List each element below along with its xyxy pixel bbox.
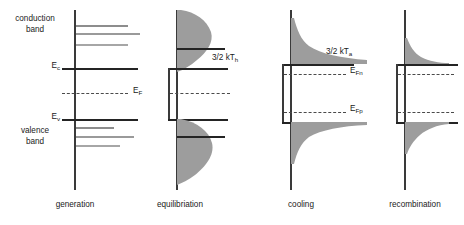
kta-text: 3/2 kT [326,47,349,56]
generation-ev-line [62,119,138,121]
generation-conduction-level-1 [76,25,128,27]
generation-valence-level-1 [76,127,114,129]
efn-subscript: Fn [355,69,362,76]
kth-text: 3/2 kT [212,53,235,62]
recombination-bandgap-bracket [396,64,398,122]
cooling-bandgap-bracket [282,64,284,122]
recombination-energy-axis [404,10,406,190]
cooling-efp-line [284,112,346,113]
cooling-ec-line [282,64,354,66]
panel-recombination: recombination [390,0,464,225]
panel-cooling: 3/2 kTa EFn EFp cooling [270,0,390,225]
efn-label: EFn [350,66,363,77]
kta-subscript: a [349,50,352,57]
kth-annotation: 3/2 kTh [212,53,238,64]
generation-valence-level-3 [76,145,120,147]
panel-equilibriation: 3/2 kTh equilibriation [150,0,270,225]
generation-ec-line [62,68,138,70]
caption-generation: generation [44,200,106,209]
equilibriation-fermi-line [170,93,230,94]
equilibriation-hole-level-line [177,136,225,138]
caption-cooling: cooling [274,200,328,209]
recombination-electron-distribution [405,38,449,64]
generation-fermi-line [62,93,128,94]
cooling-efn-line [284,74,346,75]
generation-valence-level-2 [76,136,134,138]
efp-subscript: Fp [355,107,362,114]
equilibriation-ec-line [177,48,225,50]
generation-conduction-level-2 [76,33,140,35]
semiconductor-carrier-dynamics-figure: conduction band valence band Ec Ev EF ge… [0,0,464,225]
caption-recombination: recombination [378,200,452,209]
generation-conduction-level-3 [76,44,128,46]
panel-generation: generation [0,0,150,225]
kta-annotation: 3/2 kTa [326,47,352,58]
equilibriation-bandgap-bracket [168,68,170,121]
kth-subscript: h [235,56,238,63]
cooling-hole-distribution [291,122,367,164]
efp-label: EFp [350,104,363,115]
equilibriation-band-top-line [168,68,228,70]
generation-energy-axis [74,10,76,190]
caption-equilibriation: equilibriation [146,200,214,209]
recombination-hole-distribution [405,122,449,154]
recombination-efp-line [398,112,454,113]
recombination-ec-line [396,64,458,66]
equilibriation-hole-distribution [177,119,233,185]
recombination-efn-line [398,74,454,75]
